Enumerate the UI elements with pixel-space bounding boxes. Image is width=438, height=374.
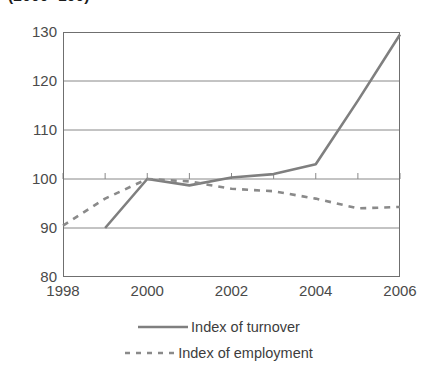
x-tick-label-2000: 2000 (115, 283, 179, 298)
chart-legend: Index of turnoverIndex of employment (0, 314, 438, 366)
x-axis-tick-labels: 19982000200220042006 (63, 283, 400, 305)
x-tick-label-2002: 2002 (200, 283, 264, 298)
x-tick-label-1998: 1998 (31, 283, 95, 298)
chart-title: (2000=100) (8, 0, 90, 5)
chart-figure: (2000=100) 8090100110120130 199820002002… (0, 0, 438, 374)
plot-border (64, 33, 400, 277)
y-tick-label-100: 100 (11, 171, 57, 186)
y-tick-label-130: 130 (11, 24, 57, 39)
legend-label: Index of turnover (190, 319, 300, 335)
axis-frame (64, 33, 400, 277)
legend-dashed-line-icon (125, 346, 177, 360)
y-tick-label-90: 90 (11, 220, 57, 235)
series-line-1 (105, 34, 400, 228)
legend-solid-line-icon (138, 320, 190, 334)
legend-item: Index of employment (0, 340, 438, 366)
y-axis-tick-labels: 8090100110120130 (5, 32, 57, 277)
data-series-lines (63, 34, 400, 228)
x-tick-label-2006: 2006 (368, 283, 432, 298)
y-tick-label-110: 110 (11, 122, 57, 137)
plot-area (63, 32, 400, 277)
legend-item: Index of turnover (0, 314, 438, 340)
legend-label: Index of employment (177, 345, 313, 361)
x-tick-label-2004: 2004 (284, 283, 348, 298)
plot-svg (63, 32, 400, 277)
y-tick-label-120: 120 (11, 73, 57, 88)
